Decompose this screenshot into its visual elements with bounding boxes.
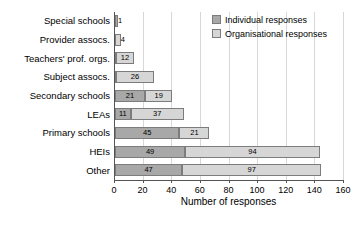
bar-segment-organisational: 19 — [145, 90, 172, 102]
x-axis-tick-mark — [200, 180, 201, 183]
y-axis-label: Other — [86, 162, 110, 180]
y-axis-label: Primary schools — [42, 124, 110, 142]
bar-row: 2119 — [115, 87, 344, 105]
legend-label-individual: Individual responses — [225, 15, 307, 25]
bar-value-label: 49 — [146, 148, 154, 156]
legend-label-organisational: Organisational responses — [225, 29, 327, 39]
bar-value-label: 4 — [121, 36, 125, 44]
legend-item-individual: Individual responses — [212, 13, 354, 26]
bar-segment-individual: 47 — [115, 164, 182, 176]
x-axis-tick-label: 40 — [156, 185, 186, 195]
x-axis-tick-mark — [343, 180, 344, 183]
y-axis-category-labels: Special schoolsProvider assocs.Teachers'… — [0, 12, 112, 180]
stacked-bar-chart: Special schoolsProvider assocs.Teachers'… — [0, 0, 357, 227]
x-axis-tick-mark — [114, 180, 115, 183]
bar-value-label: 12 — [121, 54, 129, 62]
bar-row: 112 — [115, 49, 344, 67]
y-axis-label: Provider assocs. — [40, 31, 110, 49]
bar-value-label: 37 — [153, 110, 161, 118]
x-axis-tick-label: 80 — [214, 185, 244, 195]
bar-row: 4521 — [115, 124, 344, 142]
bar-value-label: 97 — [248, 166, 256, 174]
x-axis-tick-mark — [171, 180, 172, 183]
y-axis-label: Secondary schools — [30, 87, 110, 105]
bar-segment-individual: 1 — [115, 15, 118, 27]
bar-segment-individual: 45 — [115, 127, 179, 139]
bar-segment-organisational: 4 — [115, 34, 121, 46]
x-axis-tick-label: 160 — [328, 185, 357, 195]
x-axis-tick-label: 100 — [242, 185, 272, 195]
bar-row: 4797 — [115, 161, 344, 179]
x-axis-tick-label: 60 — [185, 185, 215, 195]
bar-value-label: 47 — [144, 166, 152, 174]
bar-value-label: 45 — [143, 129, 151, 137]
bar-value-label: 1 — [118, 17, 122, 25]
x-axis-tick-label: 20 — [128, 185, 158, 195]
bar-value-label: 94 — [248, 148, 256, 156]
legend-swatch-organisational-icon — [212, 29, 221, 38]
x-axis-title: Number of responses — [114, 196, 343, 207]
x-axis-tick-mark — [257, 180, 258, 183]
y-axis-label: Teachers' prof. orgs. — [24, 50, 110, 68]
x-axis-tick-mark — [229, 180, 230, 183]
bar-value-label: 21 — [126, 92, 134, 100]
x-axis-tick-label: 0 — [99, 185, 129, 195]
x-axis-tick-mark — [286, 180, 287, 183]
bar-value-label: 21 — [190, 129, 198, 137]
legend-item-organisational: Organisational responses — [212, 27, 354, 40]
bar-value-label: 26 — [131, 73, 139, 81]
y-axis-label: LEAs — [87, 106, 110, 124]
bar-segment-individual: 11 — [115, 108, 131, 120]
bar-value-label: 19 — [154, 92, 162, 100]
legend-swatch-individual-icon — [212, 15, 221, 24]
bar-row: 1137 — [115, 105, 344, 123]
bar-segment-organisational: 97 — [182, 164, 321, 176]
bar-segment-organisational: 12 — [116, 52, 133, 64]
y-axis-label: HEIs — [89, 143, 110, 161]
bar-row: 126 — [115, 68, 344, 86]
x-axis-tick-label: 140 — [299, 185, 329, 195]
y-axis-label: Subject assocs. — [43, 68, 110, 86]
bar-segment-individual: 21 — [115, 90, 145, 102]
y-axis-label: Special schools — [44, 12, 110, 30]
bar-segment-organisational: 94 — [185, 146, 320, 158]
bar-value-label: 11 — [119, 110, 127, 118]
bar-segment-organisational: 21 — [179, 127, 209, 139]
x-axis-tick-mark — [143, 180, 144, 183]
bar-segment-organisational: 37 — [131, 108, 184, 120]
bar-row: 4994 — [115, 143, 344, 161]
x-axis-tick-mark — [314, 180, 315, 183]
bar-segment-organisational: 26 — [116, 71, 153, 83]
chart-legend: Individual responses Organisational resp… — [212, 13, 354, 41]
x-axis-tick-label: 120 — [271, 185, 301, 195]
bar-segment-individual: 49 — [115, 146, 185, 158]
